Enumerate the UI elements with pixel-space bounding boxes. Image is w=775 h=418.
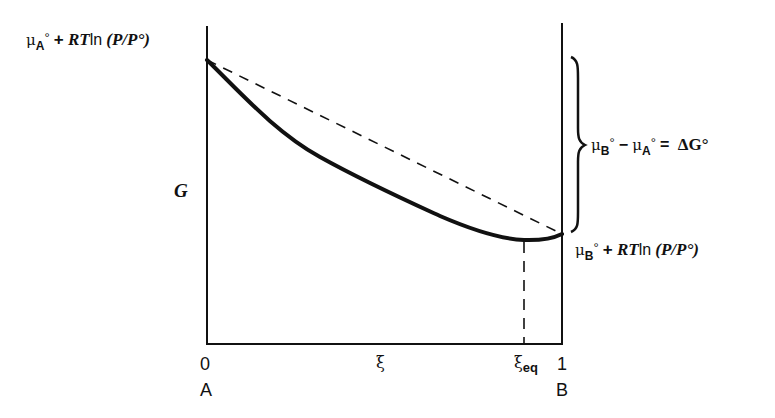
gibbs-energy-diagram bbox=[0, 0, 775, 418]
plus-sign: + bbox=[54, 30, 64, 49]
delta-g-brace bbox=[571, 57, 585, 232]
gibbs-curve bbox=[207, 60, 562, 240]
minus-sign: − bbox=[619, 136, 628, 153]
degree-symbol: ° bbox=[609, 135, 614, 150]
degree-symbol: ° bbox=[44, 30, 49, 45]
plus-sign: + bbox=[603, 240, 613, 259]
mu-b-intercept-label: μB° + RTln (P/P°) bbox=[575, 241, 699, 258]
species-a-subscript: A bbox=[642, 144, 651, 158]
dashed-reference-line bbox=[207, 60, 562, 234]
mu-symbol: μ bbox=[26, 31, 36, 49]
rt-term: RT bbox=[68, 30, 90, 49]
y-axis-label: G bbox=[174, 181, 188, 200]
x-endpoint-b: B bbox=[556, 381, 568, 399]
xi-symbol: ξ bbox=[514, 353, 523, 372]
xi-eq-label: ξeq bbox=[514, 355, 538, 371]
delta-g-term: ΔG° bbox=[678, 135, 709, 154]
mu-a-intercept-label: μA° + RTln (P/P°) bbox=[26, 31, 150, 48]
delta-g-label: μB° − μA° = ΔG° bbox=[591, 136, 708, 153]
equals-sign: = bbox=[660, 136, 669, 153]
mu-symbol: μ bbox=[575, 241, 585, 259]
x-tick-one: 1 bbox=[557, 355, 567, 373]
degree-symbol: ° bbox=[651, 135, 656, 150]
mu-symbol: μ bbox=[632, 136, 642, 154]
mu-symbol: μ bbox=[591, 136, 601, 154]
ln-term: ln bbox=[90, 31, 102, 48]
x-tick-zero: 0 bbox=[200, 355, 210, 373]
pressure-ratio: (P/P°) bbox=[655, 240, 699, 259]
pressure-ratio: (P/P°) bbox=[106, 30, 150, 49]
eq-subscript: eq bbox=[523, 360, 538, 375]
x-axis-label: ξ bbox=[376, 355, 385, 371]
ln-term: ln bbox=[639, 241, 651, 258]
x-endpoint-a: A bbox=[200, 381, 212, 399]
rt-term: RT bbox=[617, 240, 639, 259]
degree-symbol: ° bbox=[593, 240, 598, 255]
